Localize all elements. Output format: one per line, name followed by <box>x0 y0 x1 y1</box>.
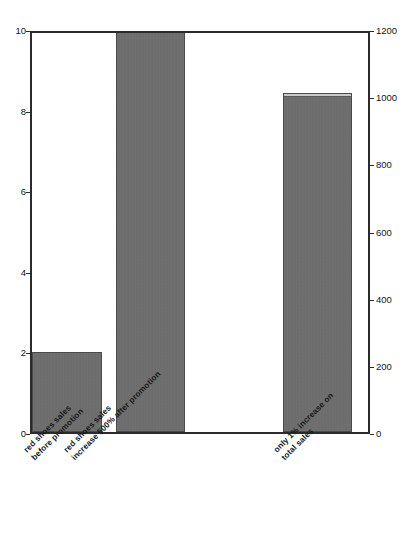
tickmark-left-2 <box>26 353 30 354</box>
left-axis-tick-label-8: 8 <box>21 107 26 117</box>
tickmark-left-10 <box>26 31 30 32</box>
right-axis-tick-label-600: 600 <box>376 228 392 238</box>
tickmark-left-8 <box>26 112 30 113</box>
tickmark-right-200 <box>370 367 374 368</box>
right-axis-tick-label-400: 400 <box>376 295 392 305</box>
bar-chart: 0 2 4 6 8 10 0 200 400 600 800 1000 1200… <box>0 0 409 559</box>
plot-area <box>30 31 370 434</box>
tickmark-right-1000 <box>370 98 374 99</box>
left-axis-tick-label-10: 10 <box>15 26 26 36</box>
tickmark-right-600 <box>370 233 374 234</box>
right-axis-tick-label-1000: 1000 <box>376 93 397 103</box>
bars-layer <box>32 33 368 432</box>
tickmark-left-4 <box>26 273 30 274</box>
left-axis-tick-label-4: 4 <box>21 268 26 278</box>
bar-only-1-increase-on-total-sales <box>283 93 352 432</box>
tickmark-right-800 <box>370 165 374 166</box>
tickmark-right-400 <box>370 300 374 301</box>
tickmark-right-1200 <box>370 31 374 32</box>
right-axis-tick-label-200: 200 <box>376 362 392 372</box>
x-axis-category-labels: red shoes sales before promotion red sho… <box>0 434 409 559</box>
tickmark-left-6 <box>26 192 30 193</box>
left-axis-tick-label-2: 2 <box>21 348 26 358</box>
left-axis-tick-label-6: 6 <box>21 187 26 197</box>
right-axis-tick-label-1200: 1200 <box>376 26 397 36</box>
right-axis-tick-label-800: 800 <box>376 160 392 170</box>
bar-top-highlight <box>284 94 351 97</box>
